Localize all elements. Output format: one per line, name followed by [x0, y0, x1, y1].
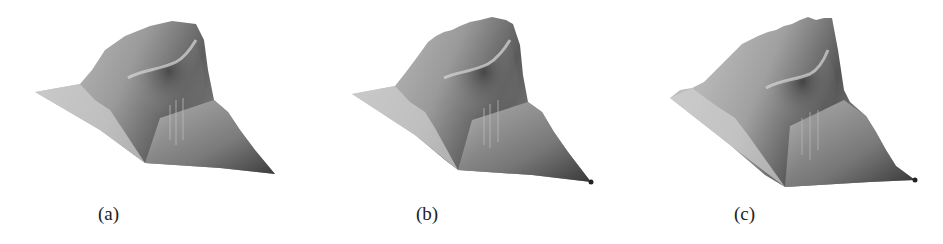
panel-a: (a)	[0, 0, 314, 244]
surface-plot-b	[310, 0, 624, 244]
surface-plot-c	[620, 0, 943, 244]
panel-b: (b)	[310, 0, 624, 244]
panel-c: (c)	[620, 0, 934, 244]
surface-plot-a	[0, 0, 314, 244]
panel-label-b: (b)	[416, 203, 438, 225]
panel-label-c: (c)	[734, 203, 755, 225]
panel-label-a: (a)	[98, 203, 119, 225]
